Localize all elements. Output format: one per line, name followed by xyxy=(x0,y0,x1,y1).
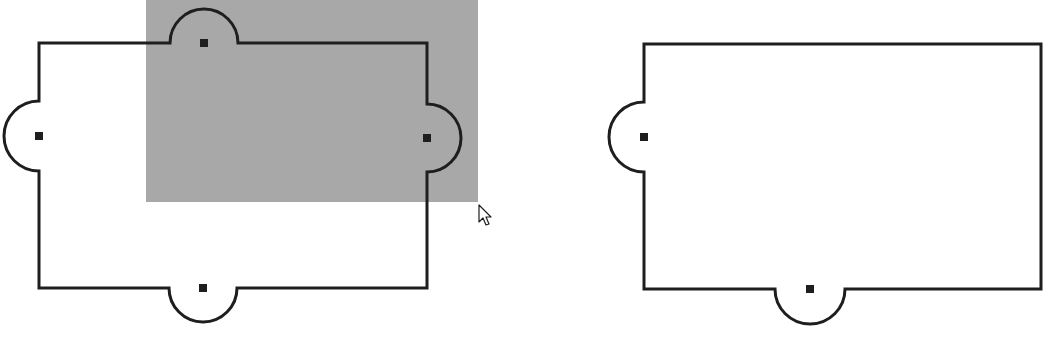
diagram-canvas[interactable] xyxy=(0,0,1046,339)
shape-body xyxy=(609,44,1041,324)
shape-with-two-connectors[interactable] xyxy=(609,44,1041,324)
arrow-cursor-icon xyxy=(479,205,491,225)
connector-handle-right[interactable] xyxy=(423,134,431,142)
connector-handle-bottom[interactable] xyxy=(806,285,814,293)
connector-handle-left[interactable] xyxy=(640,133,648,141)
connector-handle-top[interactable] xyxy=(200,39,208,47)
connector-handle-left[interactable] xyxy=(35,132,43,140)
connector-handle-bottom[interactable] xyxy=(199,284,207,292)
